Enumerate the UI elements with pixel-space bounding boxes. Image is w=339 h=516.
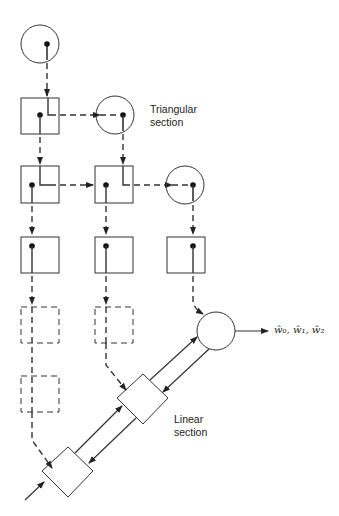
boundary-cell-1 — [21, 25, 59, 63]
label-line-1: Linear — [174, 413, 207, 426]
virtual-cell-r4c1 — [21, 307, 59, 343]
output-weights-label: ŵ₀, ŵ₁, ŵ₂ — [274, 324, 324, 335]
label-line-1: Triangular — [150, 103, 197, 116]
triangular-section-label: Triangular section — [150, 103, 197, 129]
systolic-array-diagram — [0, 0, 339, 516]
label-line-2: section — [174, 426, 207, 439]
linear-section-label: Linear section — [174, 413, 207, 439]
virtual-cell-r4c2 — [95, 307, 133, 343]
linear-cell-1 — [42, 447, 93, 497]
output-cell — [197, 312, 235, 350]
internal-cell-r3c2 — [95, 237, 133, 273]
internal-cell-r3c3 — [167, 237, 205, 273]
internal-cell-r3c1 — [21, 237, 59, 273]
virtual-cell-r5c1 — [21, 376, 59, 412]
linear-cell-2 — [117, 374, 168, 424]
label-line-2: section — [150, 116, 197, 129]
